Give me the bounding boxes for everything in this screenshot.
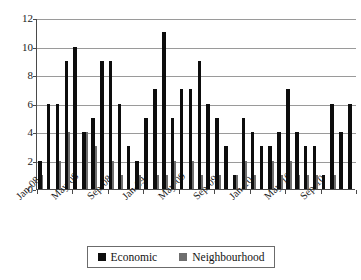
y-tick-label-4: 4 [3,127,33,138]
bar-economic [82,132,86,189]
bar-group [313,19,322,189]
bar-group [330,19,339,189]
black-square-swatch [98,253,106,261]
bar-group [198,19,207,189]
bar-group [242,19,251,189]
gray-square-swatch [179,253,187,261]
bar-group [206,19,215,189]
bar-economic [339,132,343,189]
bar-economic [153,89,157,189]
bar-economic [330,104,334,190]
bar-group [56,19,65,189]
bar-group [268,19,277,189]
legend-label-economic: Economic [111,251,158,263]
bar-economic [268,146,272,189]
bar-economic [198,61,202,189]
plot-area [36,19,355,190]
bar-group [295,19,304,189]
bar-group [144,19,153,189]
bar-economic [100,61,104,189]
bar-economic [233,175,237,189]
legend-label-neighbourhood: Neighbourhood [192,251,264,263]
bar-group [180,19,189,189]
bar-group [82,19,91,189]
bar-economic [47,104,51,190]
bar-economic [38,161,42,190]
bar-group [189,19,198,189]
bar-economic [109,61,113,189]
bar-economic [348,104,352,190]
bar-group [73,19,82,189]
bar-group [348,19,357,189]
bar-economic [162,32,166,189]
bar-group [277,19,286,189]
bar-chart: 024681012 Jan-08May-08Sep-08Jan-09May-09… [0,0,361,280]
bar-economic [127,146,131,189]
bar-economic [65,61,69,189]
y-tick-label-2: 2 [3,156,33,167]
bar-economic [313,146,317,189]
bar-group [304,19,313,189]
bar-economic [304,146,308,189]
bar-group [251,19,260,189]
bar-group [224,19,233,189]
bar-group [162,19,171,189]
y-tick-label-12: 12 [3,13,33,24]
bar-group [109,19,118,189]
bar-group [233,19,242,189]
bar-group [286,19,295,189]
bar-economic [260,146,264,189]
bar-group [339,19,348,189]
bar-group [153,19,162,189]
bar-economic [118,104,122,190]
bar-economic [242,118,246,189]
bar-economic [277,132,281,189]
bar-economic [251,132,255,189]
bar-economic [206,104,210,190]
bar-group [171,19,180,189]
legend-item-neighbourhood: Neighbourhood [179,251,264,263]
bar-group [135,19,144,189]
bar-economic [91,118,95,189]
bar-group [100,19,109,189]
bar-economic [56,104,60,190]
bar-economic [286,89,290,189]
y-tick-label-10: 10 [3,42,33,53]
bar-economic [224,146,228,189]
bar-economic [135,161,139,190]
bar-economic [144,118,148,189]
bar-group [215,19,224,189]
bar-economic [73,47,77,190]
bar-group [127,19,136,189]
y-tick-label-8: 8 [3,70,33,81]
bar-economic [189,89,193,189]
x-axis: Jan-08May-08Sep-08Jan-09May-09Sep-09Jan-… [36,194,355,242]
bar-group [260,19,269,189]
bar-economic [171,118,175,189]
bar-group [47,19,56,189]
bar-economic [180,89,184,189]
y-tick-mark-0 [33,190,36,191]
bar-group [65,19,74,189]
x-tick-mark-end [356,190,357,194]
chart-legend: Economic Neighbourhood [87,246,275,268]
bar-group [38,19,47,189]
y-tick-label-6: 6 [3,99,33,110]
bar-economic [322,175,326,189]
bar-group [322,19,331,189]
bar-economic [215,118,219,189]
legend-item-economic: Economic [98,251,158,263]
bar-group [118,19,127,189]
bar-economic [295,132,299,189]
y-axis: 024681012 [0,19,33,190]
bar-group [91,19,100,189]
bar-series-container [38,19,355,189]
